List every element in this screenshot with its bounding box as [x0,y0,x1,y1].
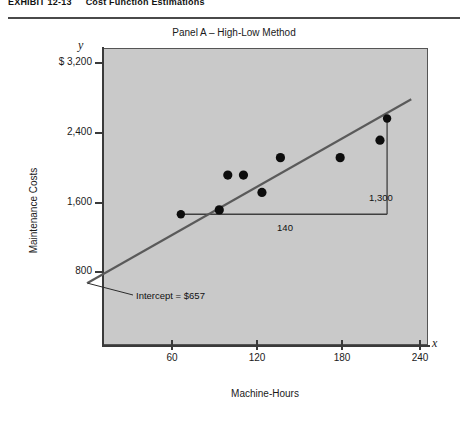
data-point [336,153,345,162]
rise-label: 1,300 [369,192,393,203]
data-point [215,205,224,214]
chart-figure: $ 3,200 2,400 1,600 800 60 120 180 240 y… [0,0,468,430]
data-point [257,188,266,197]
data-point [223,170,232,179]
cost-function-line [87,99,411,283]
chart-overlay: 1,300 140 Intercept = $657 [0,0,468,430]
data-point [276,153,285,162]
data-point [375,136,384,145]
run-label: 140 [277,222,293,233]
data-point [177,210,185,218]
intercept-leader-line [88,283,133,295]
high-low-triangle [181,118,387,214]
data-point [383,114,391,122]
intercept-label: Intercept = $657 [136,290,205,301]
data-point [239,170,248,179]
